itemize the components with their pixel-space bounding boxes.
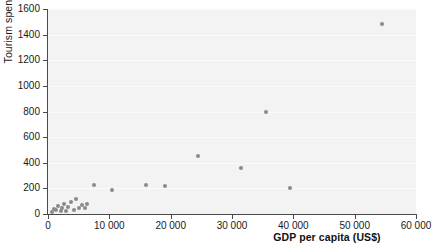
data-point: [264, 110, 268, 114]
data-point: [83, 206, 87, 210]
data-point: [144, 183, 148, 187]
y-tick-label: 1200: [6, 55, 40, 65]
data-point: [69, 200, 73, 204]
x-tick-label: 10 000: [74, 221, 144, 231]
data-point: [110, 188, 114, 192]
y-tick-mark: [43, 35, 47, 36]
x-tick-label: 60 000: [381, 221, 432, 231]
x-tick-mark: [232, 215, 233, 219]
y-tick-mark: [43, 188, 47, 189]
y-tick-label: 600: [6, 132, 40, 142]
data-point: [380, 22, 384, 26]
y-tick-mark: [43, 60, 47, 61]
y-tick-mark: [43, 137, 47, 138]
x-axis-title: GDP per capita (US$): [232, 231, 422, 243]
data-point: [239, 166, 243, 170]
data-point: [85, 202, 89, 206]
x-tick-mark: [416, 215, 417, 219]
y-tick-label: 400: [6, 158, 40, 168]
data-point: [64, 209, 68, 213]
data-point: [54, 208, 58, 212]
x-tick-label: 40 000: [258, 221, 328, 231]
data-point: [74, 197, 78, 201]
y-tick-label: 800: [6, 107, 40, 117]
y-tick-mark: [43, 163, 47, 164]
y-tick-mark: [43, 9, 47, 10]
data-point: [163, 184, 167, 188]
x-tick-mark: [171, 215, 172, 219]
y-tick-mark: [43, 214, 47, 215]
x-tick-mark: [109, 215, 110, 219]
data-point: [72, 208, 76, 212]
data-point: [288, 186, 292, 190]
x-tick-mark: [293, 215, 294, 219]
y-tick-label: 200: [6, 183, 40, 193]
x-tick-label: 0: [13, 221, 83, 231]
y-tick-label: 1600: [6, 4, 40, 14]
y-tick-label: 1000: [6, 81, 40, 91]
y-tick-label: 0: [6, 209, 40, 219]
plot-panel: [48, 9, 416, 214]
y-tick-mark: [43, 86, 47, 87]
x-tick-label: 50 000: [320, 221, 390, 231]
y-axis-line: [47, 9, 48, 215]
data-point: [196, 154, 200, 158]
x-tick-label: 30 000: [197, 221, 267, 231]
x-tick-mark: [48, 215, 49, 219]
x-tick-mark: [355, 215, 356, 219]
x-tick-label: 20 000: [136, 221, 206, 231]
y-tick-mark: [43, 112, 47, 113]
scatter-chart-figure: Tourism spending (US$) 02004006008001000…: [0, 0, 432, 250]
data-point: [66, 205, 70, 209]
y-tick-label: 1400: [6, 30, 40, 40]
data-point: [92, 183, 96, 187]
data-points-layer: [48, 9, 416, 214]
